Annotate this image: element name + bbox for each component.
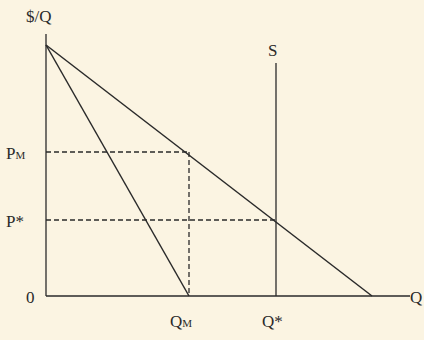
qm-label-sub: M bbox=[182, 317, 192, 329]
y-axis-label: $/Q bbox=[26, 8, 52, 25]
pm-label-sub: M bbox=[15, 149, 25, 161]
supply-label: S bbox=[268, 42, 277, 59]
pm-label: PM bbox=[6, 145, 25, 162]
qm-label: QM bbox=[170, 313, 192, 330]
qstar-label: Q* bbox=[262, 313, 283, 330]
x-axis-label: Q bbox=[410, 289, 422, 306]
origin-label: 0 bbox=[26, 289, 35, 306]
marginal-revenue-curve bbox=[46, 45, 189, 296]
diagram-canvas bbox=[0, 0, 424, 340]
qm-label-main: Q bbox=[170, 312, 182, 331]
demand-curve bbox=[46, 45, 372, 296]
pstar-label: P* bbox=[6, 213, 24, 230]
